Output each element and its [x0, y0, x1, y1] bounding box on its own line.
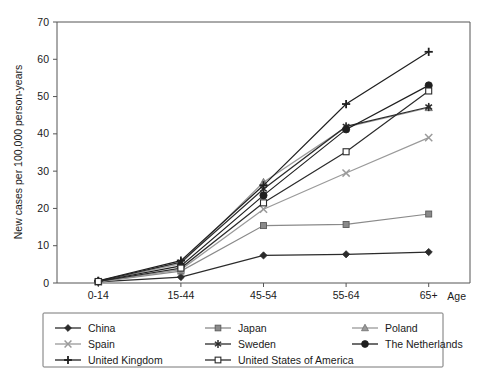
y-tick-label: 40	[37, 127, 49, 139]
x-axis-ticks: 0-1415-4445-5455-6465+	[88, 283, 438, 301]
y-tick-label: 0	[43, 277, 49, 289]
y-tick-label: 60	[37, 53, 49, 65]
data-point-marker-open-square	[343, 149, 349, 155]
x-tick-label: 55-64	[333, 289, 360, 301]
series-polyline	[98, 52, 428, 281]
data-point-marker-filled-diamond	[425, 248, 432, 255]
data-series-layer	[94, 48, 433, 286]
plot-axes	[57, 22, 470, 283]
legend-item-label: United States of America	[238, 354, 354, 366]
y-tick-label: 10	[37, 239, 49, 251]
data-point-marker-cross-x	[343, 169, 350, 176]
data-point-marker-filled-diamond	[260, 252, 267, 259]
series-spain	[95, 134, 433, 285]
data-point-marker-cross-x	[260, 206, 267, 213]
y-axis-title: New cases per 100,000 person-years	[12, 65, 24, 240]
y-tick-label: 20	[37, 202, 49, 214]
x-axis-title: Age	[447, 290, 466, 302]
data-point-marker-filled-square	[261, 223, 267, 229]
series-china	[95, 248, 433, 285]
series-united-kingdom	[94, 48, 433, 285]
data-point-marker-open-square	[95, 279, 101, 285]
data-point-marker-open-square	[261, 200, 267, 206]
legend-item-label: Spain	[88, 338, 115, 350]
data-point-marker-filled-square	[426, 211, 432, 217]
legend-item-label: Sweden	[238, 338, 276, 350]
data-point-marker-filled-circle	[260, 192, 267, 199]
data-point-marker-plus	[425, 48, 433, 56]
line-chart-figure: 010203040506070 0-1415-4445-5455-6465+ A…	[0, 0, 484, 379]
legend-item-label: The Netherlands	[385, 338, 463, 350]
data-point-marker-filled-square	[343, 221, 349, 227]
y-tick-label: 70	[37, 16, 49, 28]
data-point-marker-cross-x	[425, 134, 432, 141]
x-tick-label: 15-44	[167, 289, 194, 301]
y-axis-ticks: 010203040506070	[37, 16, 57, 289]
data-point-marker-filled-circle	[362, 341, 369, 348]
y-tick-label: 50	[37, 90, 49, 102]
chart-canvas: 010203040506070 0-1415-4445-5455-6465+ A…	[0, 0, 484, 379]
x-tick-label: 45-54	[250, 289, 277, 301]
data-point-marker-open-square	[178, 265, 184, 271]
legend-item-label: Poland	[385, 322, 418, 334]
legend-item-label: Japan	[238, 322, 267, 334]
legend-item-label: China	[88, 322, 116, 334]
data-point-marker-open-square	[426, 88, 432, 94]
chart-legend: ChinaJapanPolandSpainSwedenThe Netherlan…	[43, 313, 463, 367]
y-tick-label: 30	[37, 165, 49, 177]
data-point-marker-filled-circle	[343, 126, 350, 133]
x-tick-label: 0-14	[88, 289, 109, 301]
data-point-marker-filled-square	[215, 325, 221, 331]
data-point-marker-filled-diamond	[343, 251, 350, 258]
legend-item-label: United Kingdom	[88, 354, 163, 366]
data-point-marker-open-square	[215, 357, 221, 363]
x-tick-label: 65+	[420, 289, 438, 301]
